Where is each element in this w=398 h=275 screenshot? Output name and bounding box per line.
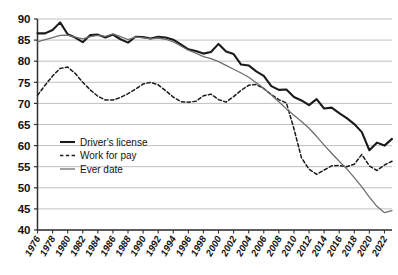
y-tick-label-80: 80: [18, 55, 31, 67]
x-tick-label-2000: 2000: [203, 233, 224, 258]
x-tick-label-2012: 2012: [293, 233, 314, 258]
legend-group: Driver's licenseWork for payEver date: [60, 137, 148, 175]
line-chart: 9085807570656055504540 19761978198019821…: [0, 0, 398, 275]
x-tick-label-2018: 2018: [339, 233, 360, 258]
legend-label-0: Driver's license: [80, 137, 148, 148]
x-tick-label-2022: 2022: [369, 233, 390, 258]
y-tick-label-85: 85: [18, 34, 31, 46]
y-axis-labels-group: 9085807570656055504540: [18, 13, 31, 236]
y-tick-label-70: 70: [18, 98, 31, 110]
legend-label-1: Work for pay: [80, 150, 137, 161]
x-tick-label-2008: 2008: [263, 233, 284, 258]
y-tick-label-50: 50: [18, 182, 31, 194]
gridlines-group: [38, 19, 393, 230]
x-tick-label-2004: 2004: [233, 233, 254, 258]
y-tick-label-40: 40: [18, 224, 31, 236]
x-tick-label-2002: 2002: [218, 233, 239, 258]
x-tick-label-2020: 2020: [354, 233, 375, 258]
y-tick-label-60: 60: [18, 140, 31, 152]
x-tick-label-2006: 2006: [248, 233, 269, 258]
legend-label-2: Ever date: [80, 164, 123, 175]
x-axis-labels-group: 1976197819801982198419861988199019921994…: [22, 233, 389, 258]
y-tick-label-55: 55: [18, 161, 31, 173]
x-tick-label-2010: 2010: [278, 233, 299, 258]
y-tick-label-45: 45: [18, 203, 31, 215]
series-line-0: [38, 22, 393, 150]
y-tick-label-90: 90: [18, 13, 31, 25]
series-line-2: [38, 34, 393, 213]
y-tick-label-75: 75: [18, 77, 31, 89]
series-group: [38, 22, 393, 212]
y-tick-label-65: 65: [18, 119, 31, 131]
x-tick-label-2014: 2014: [308, 233, 329, 258]
chart-container: 9085807570656055504540 19761978198019821…: [0, 0, 398, 275]
x-tick-label-2016: 2016: [323, 233, 344, 258]
